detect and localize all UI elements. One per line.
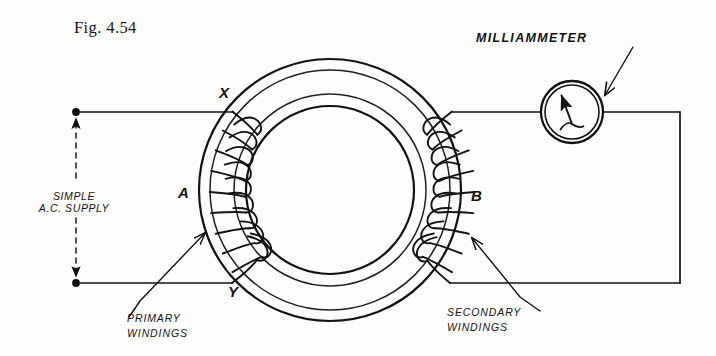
leader-lines [129,47,633,317]
transformer-diagram [0,0,716,356]
leader-secondary [472,238,540,311]
label-milliammeter: MILLIAMMETER [476,31,587,46]
label-node-b: B [471,187,482,205]
label-node-x: X [219,84,230,102]
leader-milliammeter [605,47,633,95]
label-secondary-windings: SECONDARY WINDINGS [447,305,521,335]
label-node-y: Y [228,283,239,301]
primary-windings [210,112,271,283]
label-ac-supply-line1: SIMPLE [22,190,126,202]
label-secondary-line1: SECONDARY [447,305,521,320]
leader-primary [129,233,205,317]
label-ac-supply: SIMPLE A.C. SUPPLY [22,190,126,215]
meter-needle [562,96,573,125]
label-ac-supply-line2: A.C. SUPPLY [22,202,126,214]
label-node-a: A [178,184,189,202]
label-secondary-line2: WINDINGS [447,320,521,335]
meter-scale-arc [561,123,584,129]
terminal-top [72,108,80,116]
milliammeter-instrument [541,81,603,143]
secondary-windings [413,112,474,283]
toroid-core [199,59,461,321]
label-primary-line1: PRIMARY [127,311,188,326]
figure-page: Fig. 4.54 [0,0,716,356]
label-primary-line2: WINDINGS [127,326,188,341]
label-primary-windings: PRIMARY WINDINGS [127,311,188,341]
terminal-bottom [72,279,80,287]
